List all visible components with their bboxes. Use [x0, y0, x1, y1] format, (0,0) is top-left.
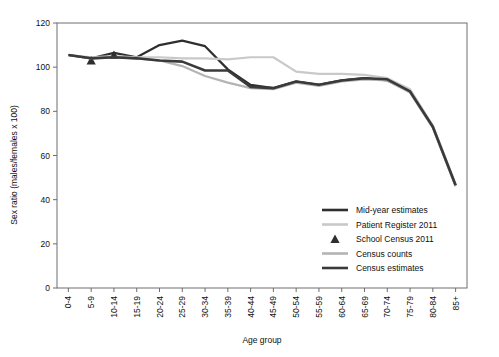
x-tick-label: 75-79: [405, 296, 415, 318]
x-tick-label: 85+: [451, 296, 461, 310]
x-tick-label: 45-49: [268, 296, 278, 318]
legend-item-label: Census counts: [356, 249, 412, 259]
x-tick-label: 50-54: [291, 296, 301, 318]
x-tick-label: 5-9: [86, 296, 96, 309]
y-tick-label: 100: [36, 62, 50, 72]
legend-item-label: Mid-year estimates: [356, 205, 428, 215]
x-tick-label: 80-84: [428, 296, 438, 318]
chart-container: 020406080100120 0-45-910-1415-1920-2425-…: [0, 0, 499, 357]
x-tick-label: 40-44: [246, 296, 256, 318]
x-axis-title: Age group: [242, 335, 281, 345]
x-tick-label: 70-74: [382, 296, 392, 318]
legend-item-label: Patient Register 2011: [356, 220, 437, 230]
y-tick-label: 20: [41, 239, 51, 249]
x-tick-label: 0-4: [63, 296, 73, 309]
y-tick-label: 80: [41, 106, 51, 116]
y-axis-title: Sex ratio (males/females x 100): [9, 105, 19, 225]
x-tick-label: 20-24: [155, 296, 165, 318]
x-tick-label: 25-29: [177, 296, 187, 318]
x-tick-label: 60-64: [337, 296, 347, 318]
x-tick-label: 35-39: [223, 296, 233, 318]
x-tick-label: 65-69: [360, 296, 370, 318]
legend-item-label: School Census 2011: [356, 234, 434, 244]
x-tick-label: 10-14: [109, 296, 119, 318]
x-axis-ticks: 0-45-910-1415-1920-2425-2930-3435-3940-4…: [63, 288, 460, 318]
y-tick-label: 40: [41, 195, 51, 205]
legend-item-label: Census estimates: [356, 263, 424, 273]
x-tick-label: 55-59: [314, 296, 324, 318]
x-tick-label: 15-19: [132, 296, 142, 318]
y-tick-label: 0: [45, 283, 50, 293]
y-tick-label: 120: [36, 18, 50, 28]
sex-ratio-line-chart: 020406080100120 0-45-910-1415-1920-2425-…: [0, 0, 499, 357]
y-axis-ticks: 020406080100120: [36, 18, 57, 293]
x-tick-label: 30-34: [200, 296, 210, 318]
y-tick-label: 60: [41, 151, 51, 161]
